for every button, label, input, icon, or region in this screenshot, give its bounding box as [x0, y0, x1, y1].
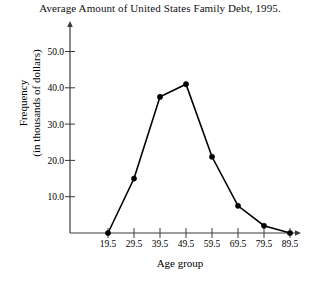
x-tick-label: 79.5	[256, 239, 273, 250]
data-point	[235, 203, 240, 208]
x-tick-label: 29.5	[126, 239, 143, 250]
x-tick-label: 59.5	[204, 239, 221, 250]
x-tick-label: 19.5	[100, 239, 117, 250]
x-axis-label: Age group	[60, 257, 300, 270]
data-point-group	[105, 82, 292, 236]
data-point	[157, 94, 162, 99]
x-tick-label: 69.5	[230, 239, 247, 250]
data-point	[209, 154, 214, 159]
data-point	[261, 223, 266, 228]
x-tick-label-group: 19.5 29.5 39.5 49.5 59.5 69.5 79.5 89.5	[0, 239, 320, 253]
frequency-polygon-line	[108, 84, 290, 233]
data-point	[183, 82, 188, 87]
x-tick-label: 39.5	[152, 239, 169, 250]
chart-figure: Average Amount of United States Family D…	[0, 0, 320, 287]
data-point	[287, 230, 292, 235]
x-tick-label: 49.5	[178, 239, 195, 250]
data-point	[105, 230, 110, 235]
data-point	[131, 176, 136, 181]
x-tick-label: 89.5	[282, 239, 299, 250]
